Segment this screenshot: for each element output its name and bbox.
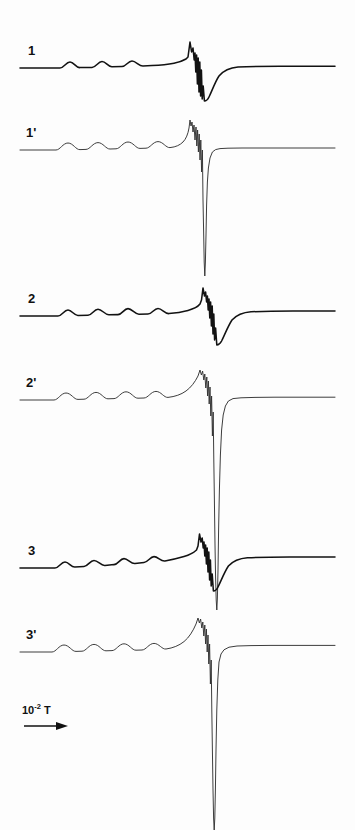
scale-bar-mantissa: 10: [22, 704, 34, 716]
trace-curve-2-prime: [20, 370, 335, 610]
trace-curve-3: [20, 534, 335, 591]
right-arrow-icon: [22, 720, 72, 732]
trace-curve-2: [20, 288, 335, 345]
scale-bar: 10-2 T: [22, 703, 102, 732]
curve-label-1-prime: 1': [26, 126, 36, 139]
curve-label-1: 1: [28, 44, 35, 57]
trace-curve-1: [20, 42, 335, 101]
curve-label-3: 3: [28, 544, 35, 557]
scale-bar-label: 10-2 T: [22, 703, 102, 716]
curve-label-3-prime: 3': [26, 628, 36, 641]
curve-label-2-prime: 2': [26, 376, 36, 389]
scale-bar-unit: T: [44, 704, 51, 716]
curve-label-2: 2: [28, 292, 35, 305]
trace-curve-1-prime: [20, 120, 335, 276]
spectra-figure: 1 1' 2 2' 3 3' 10-2 T: [0, 0, 355, 830]
scale-bar-exponent: -2: [34, 702, 41, 711]
